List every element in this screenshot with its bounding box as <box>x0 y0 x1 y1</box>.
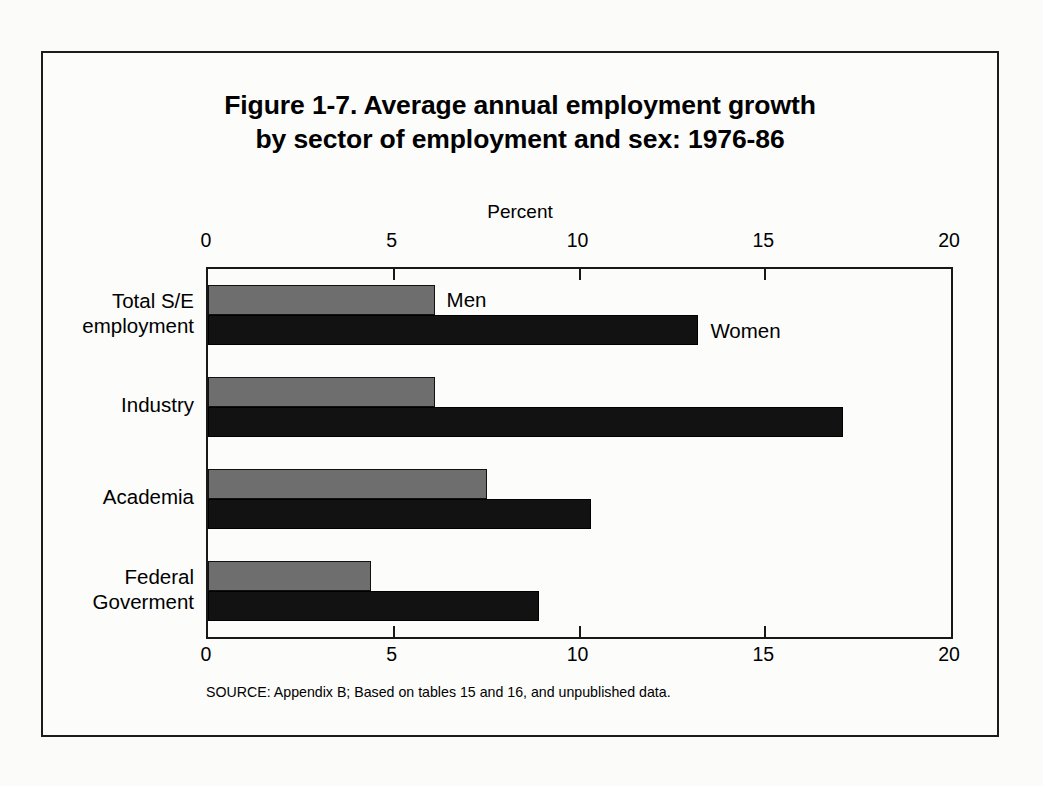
x-axis-ticklabels-top: 05101520 <box>43 229 997 255</box>
figure-border-frame: Figure 1-7. Average annual employment gr… <box>41 51 999 737</box>
plot-area: MenWomen <box>206 267 953 639</box>
bar-men-0 <box>208 285 435 315</box>
bar-women-2 <box>208 499 591 529</box>
bar-group-2 <box>208 469 951 529</box>
figure-page: Figure 1-7. Average annual employment gr… <box>0 0 1043 786</box>
x-tick-label-10: 10 <box>567 229 589 252</box>
bar-women-0 <box>208 315 698 345</box>
category-label-2: Academia <box>103 484 194 509</box>
bar-women-3 <box>208 591 539 621</box>
axis-tickmark-10 <box>579 269 581 280</box>
x-axis-ticklabels-bottom: 05101520 <box>43 643 997 669</box>
axis-tickmark-15 <box>764 626 766 637</box>
category-label-1: Industry <box>121 392 194 417</box>
bar-men-2 <box>208 469 487 499</box>
x-tick-label-5: 5 <box>386 643 397 666</box>
category-label-3: Federal Goverment <box>93 564 194 615</box>
x-tick-label-10: 10 <box>567 643 589 666</box>
axis-tickmark-10 <box>579 626 581 637</box>
axis-tickmark-15 <box>764 269 766 280</box>
bar-group-0 <box>208 285 951 345</box>
bar-women-1 <box>208 407 843 437</box>
series-annotation-women: Women <box>710 319 780 343</box>
x-tick-label-0: 0 <box>201 643 212 666</box>
x-tick-label-20: 20 <box>938 643 960 666</box>
axis-tickmark-5 <box>393 269 395 280</box>
series-annotation-men: Men <box>447 288 487 312</box>
x-tick-label-15: 15 <box>752 229 774 252</box>
x-tick-label-15: 15 <box>752 643 774 666</box>
bar-group-3 <box>208 561 951 621</box>
chart-title: Figure 1-7. Average annual employment gr… <box>43 89 997 157</box>
x-tick-label-5: 5 <box>386 229 397 252</box>
bar-men-1 <box>208 377 435 407</box>
axis-tickmark-5 <box>393 626 395 637</box>
x-tick-label-20: 20 <box>938 229 960 252</box>
bar-group-1 <box>208 377 951 437</box>
y-axis-category-labels: Total S/E employmentIndustryAcademiaFede… <box>43 267 206 635</box>
category-label-0: Total S/E employment <box>82 288 194 339</box>
source-note: SOURCE: Appendix B; Based on tables 15 a… <box>206 684 671 700</box>
x-axis-title: Percent <box>43 201 997 223</box>
x-tick-label-0: 0 <box>201 229 212 252</box>
bar-men-3 <box>208 561 371 591</box>
